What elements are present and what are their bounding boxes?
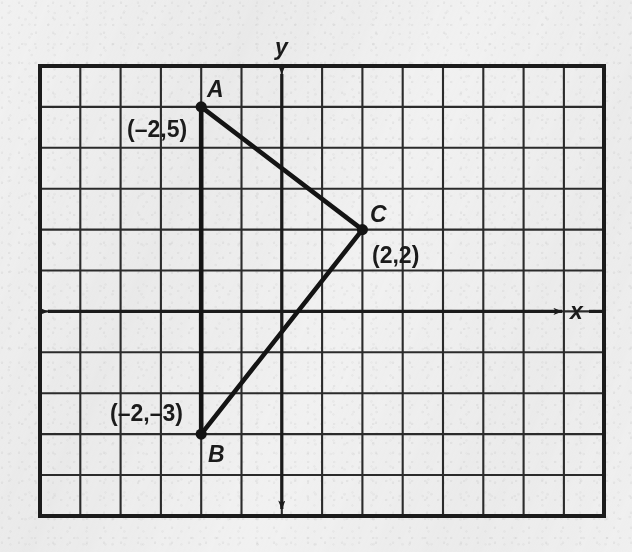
vertex-label-a: A <box>206 76 224 102</box>
coordinate-label-a: (–2,5) <box>127 116 187 142</box>
coordinate-label-c: (2,2) <box>372 242 419 268</box>
vertex-dot-c <box>357 224 368 235</box>
grid-lines <box>40 66 604 516</box>
axis-label-y: y <box>274 34 289 60</box>
vertex-dot-b <box>196 429 207 440</box>
coordinate-label-b: (–2,–3) <box>110 400 183 426</box>
vertex-dot-a <box>196 101 207 112</box>
axis-label-x: x <box>568 298 584 324</box>
vertex-label-c: C <box>370 201 387 227</box>
vertex-label-b: B <box>208 441 225 467</box>
coordinate-grid-svg: A (–2,5) B (–2,–3) C (2,2) x y <box>0 0 632 552</box>
coordinate-plane-figure: A (–2,5) B (–2,–3) C (2,2) x y <box>0 0 632 552</box>
